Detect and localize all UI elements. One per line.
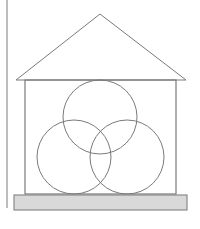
roof-triangle — [16, 14, 186, 80]
house-base-slab — [14, 195, 187, 210]
house-walls — [25, 80, 176, 194]
house-diagram — [0, 0, 200, 229]
circle-top — [63, 80, 137, 154]
circle-bottom-right — [90, 120, 164, 194]
